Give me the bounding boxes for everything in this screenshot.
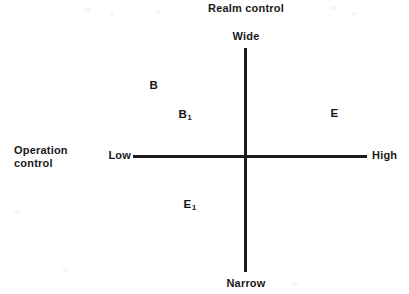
data-point-e: E xyxy=(317,95,338,131)
data-point-b1: B1 xyxy=(165,96,191,134)
vertical-axis-title: Realm control xyxy=(146,2,346,15)
quadrant-diagram: Realm control Wide Narrow Operation cont… xyxy=(0,0,409,294)
horizontal-axis-title: Operation control xyxy=(14,144,100,170)
horizontal-axis-line xyxy=(133,155,367,158)
data-point-b1-label: B xyxy=(179,108,188,120)
scan-speckle xyxy=(352,12,356,15)
data-point-b1-subscript: 1 xyxy=(188,113,192,122)
data-point-b: B xyxy=(136,67,158,103)
vertical-axis-line xyxy=(244,48,247,272)
scan-speckle xyxy=(84,8,91,12)
horizontal-axis-title-line1: Operation xyxy=(14,144,100,157)
axis-label-high: High xyxy=(372,149,408,162)
scan-speckle xyxy=(110,13,114,16)
data-point-e1: E1 xyxy=(170,186,196,224)
data-point-e1-label: E xyxy=(184,198,192,210)
axis-label-wide: Wide xyxy=(186,30,306,43)
data-point-e1-subscript: 1 xyxy=(192,203,196,212)
axis-label-low: Low xyxy=(101,149,131,162)
scan-speckle xyxy=(62,268,67,271)
data-point-e-label: E xyxy=(331,107,339,119)
horizontal-axis-title-line2: control xyxy=(14,157,100,170)
scan-speckle xyxy=(14,210,19,213)
data-point-b-label: B xyxy=(150,79,159,91)
axis-label-narrow: Narrow xyxy=(186,277,306,290)
